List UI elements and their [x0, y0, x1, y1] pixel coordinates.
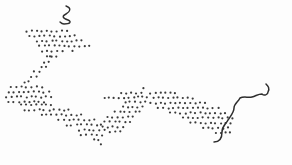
stipple-dot	[215, 132, 217, 134]
stipple-dot	[36, 85, 38, 87]
stipple-dot	[26, 96, 28, 98]
stipple-dot	[96, 124, 98, 126]
stipple-dot	[220, 113, 222, 115]
stipple-dot	[45, 66, 47, 68]
stipple-dot	[204, 102, 206, 104]
stipple-dot	[125, 101, 127, 103]
stipple-dot	[197, 107, 199, 109]
stipple-dot	[207, 127, 209, 129]
stipple-dot	[28, 101, 30, 103]
stipple-dot	[101, 134, 103, 136]
stipple-dot	[160, 92, 162, 94]
stipple-dot	[49, 110, 51, 112]
stipple-dot	[182, 107, 184, 109]
stipple-dot	[46, 50, 48, 52]
stipple-dot	[218, 107, 220, 109]
stipple-dot	[35, 103, 37, 105]
stipple-dot	[91, 133, 93, 135]
stipple-dot	[229, 131, 231, 133]
stipple-dot	[28, 35, 30, 37]
stipple-dot	[218, 116, 220, 118]
stipple-dot	[63, 110, 65, 112]
stipple-dot	[86, 123, 88, 125]
stipple-dot	[103, 120, 105, 122]
stipple-dot	[53, 35, 55, 37]
stipple-dot	[78, 46, 80, 48]
stipple-dot	[202, 127, 204, 129]
stipple-dot	[114, 120, 116, 122]
stipple-dot	[27, 91, 29, 93]
stipple-dot	[168, 108, 170, 110]
stipple-dot	[80, 134, 82, 136]
stipple-dot	[217, 127, 219, 129]
stipple-dot	[194, 121, 196, 123]
stipple-dot	[108, 97, 110, 99]
stipple-dot	[80, 113, 82, 115]
stipple-dot	[225, 131, 227, 133]
stipple-dot	[80, 123, 82, 125]
stipple-dot	[11, 96, 13, 98]
stipple-dot	[104, 129, 106, 131]
stipple-dot	[197, 117, 199, 119]
stipple-dot	[36, 40, 38, 42]
stipple-dot	[18, 91, 20, 93]
stipple-dot	[78, 130, 80, 132]
stipple-dot	[30, 76, 32, 78]
stipple-dot	[51, 56, 53, 58]
stipple-dot	[50, 96, 52, 98]
stipple-dot	[169, 102, 171, 104]
stipple-dot	[88, 119, 90, 121]
stipple-dot	[224, 112, 226, 114]
stipple-dot	[36, 30, 38, 32]
stipple-dot	[30, 104, 32, 106]
stipple-dot	[33, 100, 35, 102]
stipple-dot	[12, 91, 14, 93]
stipple-dot	[8, 91, 10, 93]
stipple-dot	[69, 35, 71, 37]
stipple-dot	[158, 96, 160, 98]
stipple-dot	[5, 96, 7, 98]
stipple-dot	[194, 112, 196, 114]
stipple-dot	[61, 113, 63, 115]
stipple-dot	[61, 30, 63, 32]
stipple-dot	[149, 102, 151, 104]
stipple-dot	[18, 101, 20, 103]
stipple-dot	[45, 40, 47, 42]
stipple-dot	[21, 85, 23, 87]
stipple-dot	[184, 102, 186, 104]
stipple-dot	[62, 50, 64, 52]
stipple-dot	[96, 134, 98, 136]
stipple-dot	[50, 51, 52, 53]
stipple-dot	[41, 51, 43, 53]
stipple-dot	[123, 97, 125, 99]
stipple-dots	[5, 30, 233, 146]
stipple-dot	[38, 91, 40, 93]
stipple-dot	[50, 104, 52, 106]
stipple-dot	[97, 139, 99, 141]
stipple-dot	[88, 45, 90, 47]
stipple-dot	[10, 86, 12, 88]
stipple-dot	[55, 56, 57, 58]
squiggle-strokes	[60, 6, 269, 142]
stipple-dot	[24, 81, 26, 83]
stipple-dot	[128, 111, 130, 113]
stipple-dot	[27, 80, 29, 82]
stipple-dot	[45, 103, 47, 105]
stipple-dot	[119, 130, 121, 132]
stipple-dot	[111, 125, 113, 127]
stipple-dot	[172, 97, 174, 99]
stipple-dot	[41, 103, 43, 105]
stipple-dot	[52, 40, 54, 42]
stipple-dot	[187, 117, 189, 119]
stipple-dot	[66, 30, 68, 32]
stipple-dot	[90, 124, 92, 126]
stipple-dot	[129, 121, 131, 123]
stipple-dot	[146, 96, 148, 98]
stipple-dot	[85, 134, 87, 136]
stipple-dot	[33, 90, 35, 92]
stipple-dot	[38, 45, 40, 47]
stipple-dot	[133, 96, 135, 98]
stipple-dot	[15, 86, 17, 88]
stipple-dot	[25, 31, 27, 33]
stipple-dot	[186, 107, 188, 109]
